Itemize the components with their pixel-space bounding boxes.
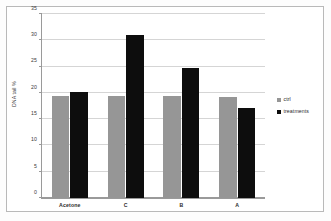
bar-group: Acetone: [42, 14, 98, 198]
y-tick-label: 30: [31, 32, 37, 37]
plot-area: 05101520253035 AcetoneCBA: [41, 14, 265, 199]
y-tick-label: 10: [31, 138, 37, 143]
bar-ctrl-B: [163, 96, 180, 198]
bar-group: B: [154, 14, 210, 198]
y-tick-label: 5: [34, 164, 37, 169]
y-tick-label: 20: [31, 85, 37, 90]
bar-treatments-C: [126, 35, 143, 198]
legend-item-ctrl: ctrl: [277, 96, 327, 103]
bar-group: C: [98, 14, 154, 198]
legend-label: treatments: [284, 109, 310, 114]
bars-layer: AcetoneCBA: [42, 14, 265, 198]
y-tick-label: 35: [31, 6, 37, 11]
chart-legend: ctrltreatments: [277, 96, 327, 120]
x-tick-label: Acetone: [42, 203, 98, 208]
y-axis-title: DNA tail %: [12, 81, 17, 107]
bar-treatments-A: [238, 108, 255, 198]
bar-ctrl-Acetone: [52, 96, 69, 199]
bar-treatments-B: [182, 68, 199, 198]
legend-label: ctrl: [284, 97, 291, 102]
bar-treatments-Acetone: [70, 92, 87, 198]
y-tick-label: 15: [31, 111, 37, 116]
chart-figure: DNA tail % 05101520253035 AcetoneCBA ctr…: [0, 0, 331, 221]
legend-swatch-icon: [277, 98, 281, 102]
x-tick-label: C: [98, 203, 154, 208]
x-tick-label: A: [209, 203, 265, 208]
bar-group: A: [209, 14, 265, 198]
y-tick-label: 25: [31, 59, 37, 64]
legend-item-treatments: treatments: [277, 108, 327, 115]
bar-ctrl-A: [219, 97, 236, 198]
y-tick-label: 0: [34, 190, 37, 195]
legend-swatch-icon: [277, 110, 281, 114]
x-tick-label: B: [154, 203, 210, 208]
bar-ctrl-C: [108, 96, 125, 199]
